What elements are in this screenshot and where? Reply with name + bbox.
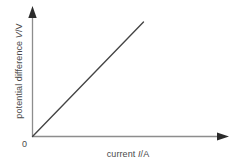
x-axis-label: current I/A: [0, 149, 240, 159]
y-axis-label-text: potential difference: [14, 38, 24, 119]
plot-area: [0, 0, 240, 164]
data-series-line: [33, 22, 144, 137]
arrow-right-icon: [217, 133, 229, 141]
arrow-up-icon: [28, 6, 36, 18]
origin-label: 0: [22, 139, 27, 149]
y-axis-label-unit: /V: [14, 23, 24, 32]
x-axis-label-unit: /A: [141, 149, 150, 159]
graph-figure: 0 current I/A potential difference V/V: [0, 0, 240, 164]
y-axis-label-symbol: V: [14, 32, 24, 38]
x-axis-label-text: current: [107, 149, 138, 159]
y-axis-label: potential difference V/V: [14, 7, 24, 135]
